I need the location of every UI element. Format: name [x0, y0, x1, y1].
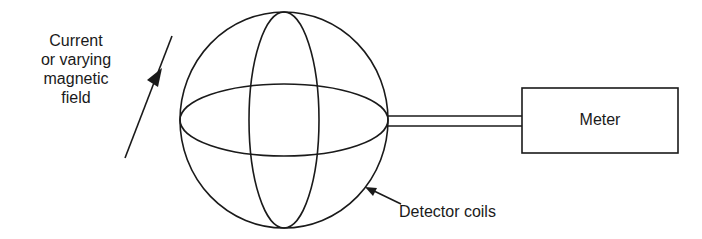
field-direction-line: [125, 36, 172, 158]
field-label-line-4: field: [22, 88, 130, 107]
vertical-detector-coil: [249, 12, 319, 228]
horizontal-detector-coil: [180, 84, 388, 156]
coils-pointer-arrowhead-icon: [365, 187, 377, 196]
field-arrowhead-icon: [147, 68, 162, 87]
field-label-line-3: magnetic: [22, 69, 130, 88]
field-label-line-2: or varying: [22, 50, 130, 69]
field-label-line-1: Current: [22, 31, 130, 50]
sphere-outline: [180, 12, 388, 228]
coils-pointer-line: [372, 190, 401, 204]
detector-coils-label: Detector coils: [399, 202, 496, 221]
meter-label: Meter: [522, 110, 678, 129]
field-label: Current or varying magnetic field: [22, 31, 130, 107]
